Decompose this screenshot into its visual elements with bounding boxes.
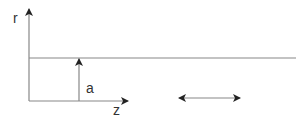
diagram-svg — [0, 0, 307, 132]
r-axis-label: r — [13, 11, 18, 25]
diagram-canvas: r a z — [0, 0, 307, 132]
z-axis-label: z — [113, 103, 120, 117]
radius-label: a — [86, 81, 94, 95]
